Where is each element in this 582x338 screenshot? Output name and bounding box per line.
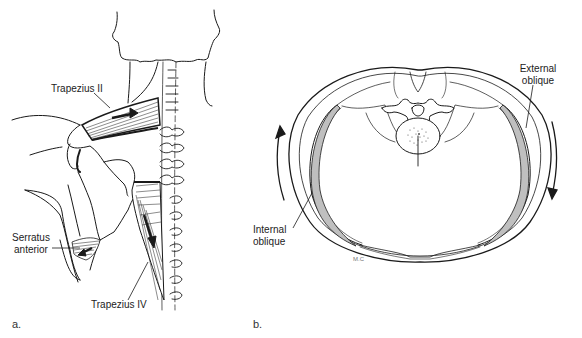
rotation-arrow-left-icon xyxy=(277,130,284,200)
label-trapezius-ii: Trapezius II xyxy=(51,83,103,95)
label-serratus-anterior: Serratus anterior xyxy=(8,232,54,256)
external-oblique-leader-line xyxy=(526,85,533,128)
label-internal-line2: oblique xyxy=(253,236,286,248)
internal-oblique-leader-line xyxy=(293,193,312,228)
panel-b-illustration xyxy=(0,0,582,338)
label-external-oblique: External oblique xyxy=(515,63,561,87)
panel-letter-b: b. xyxy=(253,318,262,330)
panel-letter-a: a. xyxy=(12,318,21,330)
anatomy-figure: Trapezius II Serratus anterior Trapezius… xyxy=(0,0,582,338)
label-internal-oblique: Internal oblique xyxy=(253,224,286,248)
label-serratus-line2: anterior xyxy=(8,244,54,256)
label-internal-line1: Internal xyxy=(253,224,286,236)
label-external-line1: External xyxy=(515,63,561,75)
label-external-line2: oblique xyxy=(515,75,561,87)
skin-outline-icon xyxy=(289,67,551,262)
internal-oblique-muscle xyxy=(311,105,356,246)
label-trapezius-iv: Trapezius IV xyxy=(91,299,147,311)
label-serratus-line1: Serratus xyxy=(8,232,54,244)
rotation-arrow-right-icon xyxy=(552,122,557,195)
external-oblique-muscle xyxy=(484,105,529,246)
artist-signature: M.C xyxy=(353,253,364,265)
